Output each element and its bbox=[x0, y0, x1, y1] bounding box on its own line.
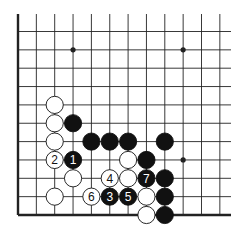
white-stone[interactable] bbox=[46, 188, 63, 205]
move-number: 3 bbox=[106, 190, 113, 204]
stone-disc bbox=[120, 170, 137, 187]
move-number: 5 bbox=[125, 190, 132, 204]
star-point bbox=[70, 47, 75, 52]
black-stone[interactable] bbox=[156, 206, 173, 223]
move-number: 7 bbox=[143, 172, 150, 186]
stone-disc bbox=[156, 170, 173, 187]
white-stone[interactable] bbox=[120, 151, 137, 168]
black-stone[interactable] bbox=[138, 151, 155, 168]
white-stone[interactable] bbox=[64, 170, 81, 187]
stone-disc bbox=[138, 206, 155, 223]
stone-disc bbox=[46, 133, 63, 150]
black-stone[interactable]: 3 bbox=[101, 188, 118, 205]
go-board: 2147635 bbox=[0, 0, 247, 240]
white-stone[interactable] bbox=[46, 133, 63, 150]
black-stone[interactable] bbox=[83, 133, 100, 150]
stone-disc bbox=[46, 115, 63, 132]
black-stone[interactable]: 1 bbox=[64, 151, 81, 168]
star-point bbox=[181, 47, 186, 52]
stone-disc bbox=[156, 206, 173, 223]
stone-disc bbox=[46, 96, 63, 113]
stone-disc bbox=[120, 133, 137, 150]
stone-disc bbox=[64, 170, 81, 187]
stone-disc bbox=[101, 133, 118, 150]
black-stone[interactable] bbox=[101, 133, 118, 150]
black-stone[interactable] bbox=[156, 188, 173, 205]
black-stone[interactable] bbox=[156, 170, 173, 187]
black-stone[interactable]: 7 bbox=[138, 170, 155, 187]
stone-disc bbox=[46, 188, 63, 205]
black-stone[interactable] bbox=[120, 133, 137, 150]
white-stone[interactable] bbox=[138, 188, 155, 205]
stone-disc bbox=[120, 151, 137, 168]
black-stone[interactable]: 5 bbox=[120, 188, 137, 205]
star-point bbox=[181, 157, 186, 162]
move-number: 4 bbox=[106, 172, 113, 186]
stone-disc bbox=[138, 188, 155, 205]
white-stone[interactable] bbox=[46, 96, 63, 113]
stone-disc bbox=[83, 133, 100, 150]
black-stone[interactable] bbox=[156, 133, 173, 150]
white-stone[interactable] bbox=[46, 115, 63, 132]
white-stone[interactable]: 2 bbox=[46, 151, 63, 168]
stone-disc bbox=[138, 151, 155, 168]
move-number: 2 bbox=[51, 153, 58, 167]
stone-disc bbox=[156, 133, 173, 150]
move-number: 6 bbox=[88, 190, 95, 204]
white-stone[interactable]: 4 bbox=[101, 170, 118, 187]
move-number: 1 bbox=[70, 153, 77, 167]
stone-disc bbox=[64, 115, 81, 132]
stone-disc bbox=[156, 188, 173, 205]
white-stone[interactable] bbox=[138, 206, 155, 223]
white-stone[interactable] bbox=[120, 170, 137, 187]
white-stone[interactable]: 6 bbox=[83, 188, 100, 205]
black-stone[interactable] bbox=[64, 115, 81, 132]
